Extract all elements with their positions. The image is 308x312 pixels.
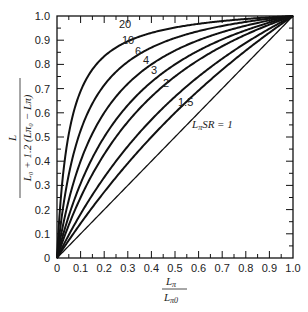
svg-text:0.5: 0.5 <box>35 131 50 143</box>
svg-text:1.0: 1.0 <box>285 262 300 274</box>
svg-text:0.5: 0.5 <box>167 262 182 274</box>
y-axis-label: L L₀ + 1.2 (Lπ₀ − Lπ) <box>6 78 34 198</box>
svg-text:0.6: 0.6 <box>35 107 50 119</box>
curve-label-20: 20 <box>119 18 131 30</box>
svg-text:0: 0 <box>54 262 60 274</box>
curve-label-10: 10 <box>122 34 134 46</box>
curve-label-4: 4 <box>143 54 149 66</box>
svg-text:0.6: 0.6 <box>191 262 206 274</box>
svg-text:1.0: 1.0 <box>35 10 50 22</box>
curve-label-1-5: 1.5 <box>178 96 193 108</box>
svg-text:0.8: 0.8 <box>238 262 253 274</box>
svg-text:Lπ0: Lπ0 <box>163 291 178 305</box>
svg-text:L₀ + 1.2 (Lπ₀ − Lπ): L₀ + 1.2 (Lπ₀ − Lπ) <box>21 94 34 182</box>
svg-text:Lπ: Lπ <box>165 275 177 289</box>
curve-label-2: 2 <box>163 77 169 89</box>
y-tick-labels: 00.10.20.30.40.50.60.70.80.91.0 <box>35 10 50 264</box>
curve-label-3: 3 <box>151 64 157 76</box>
curves <box>57 16 293 258</box>
curve-label-6: 6 <box>135 45 141 57</box>
svg-text:0.9: 0.9 <box>35 34 50 46</box>
svg-text:0: 0 <box>44 252 50 264</box>
svg-text:0.3: 0.3 <box>35 179 50 191</box>
curve-sr-1 <box>57 16 293 258</box>
x-axis-label: Lπ Lπ0 <box>162 275 187 305</box>
svg-text:0.1: 0.1 <box>73 262 88 274</box>
curve-label-sr-1: LπSR = 1 <box>191 118 233 132</box>
svg-text:0.4: 0.4 <box>144 262 159 274</box>
svg-text:0.4: 0.4 <box>35 155 50 167</box>
svg-text:0.2: 0.2 <box>35 204 50 216</box>
svg-text:0.8: 0.8 <box>35 58 50 70</box>
svg-text:0.7: 0.7 <box>215 262 230 274</box>
svg-text:0.9: 0.9 <box>262 262 277 274</box>
svg-text:L: L <box>6 135 18 142</box>
chart: 00.10.20.30.40.50.60.70.80.91.0 00.10.20… <box>0 0 308 312</box>
x-tick-labels: 00.10.20.30.40.50.60.70.80.91.0 <box>54 262 301 274</box>
svg-text:0.1: 0.1 <box>35 228 50 240</box>
svg-text:0.3: 0.3 <box>120 262 135 274</box>
svg-text:0.7: 0.7 <box>35 83 50 95</box>
svg-text:0.2: 0.2 <box>97 262 112 274</box>
